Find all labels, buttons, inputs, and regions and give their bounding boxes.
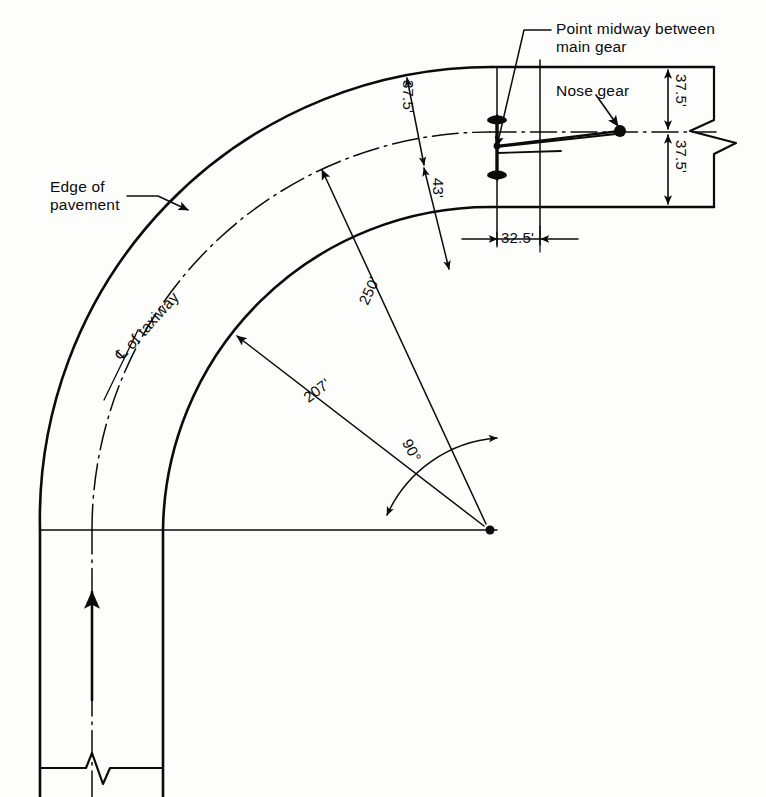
break-symbol-bottom [40,753,163,784]
drawing-sheet: Point midway between main gear Nose gear… [0,0,766,797]
label-dim-43-curve: 43' [430,178,447,198]
outer-edge-curve [40,67,492,530]
label-edge-of-pavement: Edge of pavement [50,178,120,213]
label-dim-375-lower: 37.5' [673,140,690,173]
wheelbase-line-upper [497,131,620,146]
label-dim-375-upper: 37.5' [673,74,690,107]
main-gear-wheel-right [487,171,507,180]
inner-edge-curve [163,207,490,530]
break-symbol-right [690,67,736,207]
label-dim-325: 32.5' [501,229,534,246]
label-nose-gear: Nose gear [556,82,629,100]
taxiway-curve-drawing [0,0,766,797]
leader-edge-of-pavement [127,196,188,210]
label-point-midway: Point midway between main gear [556,20,715,55]
wheelbase-line-lower [497,134,616,147]
arc-center-point [486,526,495,535]
radius-207-dimension-line [237,336,484,526]
radius-250-dimension-line [322,170,486,524]
leader-point-midway [497,30,551,146]
gear-axis-stub [497,151,561,153]
label-dim-375-curve: 37.5' [400,80,417,113]
